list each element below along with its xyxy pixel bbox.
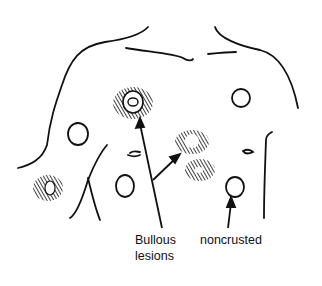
lesion-circle	[226, 177, 244, 197]
label-lesions: lesions	[135, 249, 174, 263]
arrow-bullous-upper	[140, 124, 162, 228]
bullous-lesions	[33, 87, 215, 201]
arrow-head-icon	[136, 118, 144, 128]
arrow-head-icon	[227, 197, 235, 207]
label-noncrusted: noncrusted	[200, 233, 262, 247]
noncrusted-lesions	[68, 89, 250, 197]
lesion-circle	[68, 123, 88, 145]
lesion-circle	[116, 175, 134, 197]
lesion-circle	[232, 89, 250, 107]
label-bullous: Bullous	[135, 233, 176, 247]
